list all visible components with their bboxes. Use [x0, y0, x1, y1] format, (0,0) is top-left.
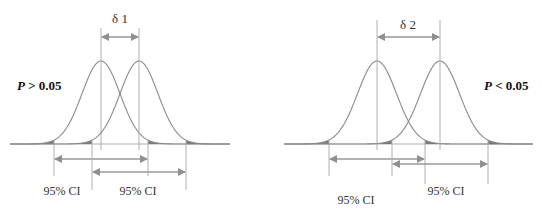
ci-overlap-diagram: δ 1 P > 0.05 95% CI 95% CI δ 2 P < 0.05 … [0, 0, 542, 213]
diagram-canvas: δ 1 P > 0.05 95% CI 95% CI δ 2 P < 0.05 … [0, 0, 542, 213]
left-panel [10, 28, 230, 190]
p-value-right: P < 0.05 [484, 78, 529, 93]
delta1-label: δ 1 [112, 11, 128, 26]
normal-curve [284, 61, 533, 144]
p-value-right-rest: < 0.05 [492, 78, 529, 93]
ci-label-left-2: 95% CI [120, 184, 157, 198]
ci-label-right-2: 95% CI [428, 184, 465, 198]
normal-curve [284, 61, 533, 144]
p-value-left: P > 0.05 [17, 78, 62, 93]
ci-label-left-1: 95% CI [44, 184, 81, 198]
p-value-left-rest: > 0.05 [25, 78, 62, 93]
delta2-label: δ 2 [400, 17, 416, 32]
normal-curve [10, 61, 230, 144]
ci-label-right-1: 95% CI [338, 193, 375, 207]
right-panel [284, 20, 533, 184]
normal-curve [10, 61, 230, 144]
